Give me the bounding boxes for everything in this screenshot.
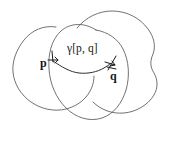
geodesic-label: γ[p, q] (67, 43, 98, 55)
point-q-label: q (110, 70, 117, 82)
geodesic-curve (53, 61, 110, 73)
point-p-label: p (40, 57, 47, 69)
diagram-svg (0, 0, 170, 142)
left-region-outline (13, 27, 94, 111)
figure-canvas: p q γ[p, q] (0, 0, 170, 142)
q-endpoint-marker (105, 56, 116, 70)
